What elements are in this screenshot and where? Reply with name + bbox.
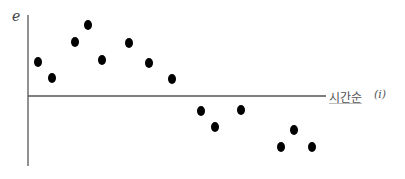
data-point	[71, 37, 79, 47]
data-point	[145, 58, 153, 68]
data-point	[237, 105, 245, 115]
x-axis-label: 시간순	[329, 88, 362, 105]
x-axis-variable: (i)	[374, 88, 386, 101]
data-point	[84, 20, 92, 30]
data-point	[211, 122, 219, 132]
data-point	[48, 73, 56, 83]
data-point	[125, 38, 133, 48]
data-points	[34, 20, 316, 152]
data-point	[197, 106, 205, 116]
data-point	[168, 74, 176, 84]
data-point	[98, 55, 106, 65]
y-axis-label: e	[12, 8, 20, 24]
data-point	[290, 125, 298, 135]
data-point	[308, 142, 316, 152]
data-point	[277, 142, 285, 152]
data-point	[34, 57, 42, 67]
